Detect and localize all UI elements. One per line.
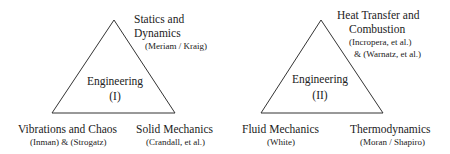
bottom-right-title: Solid Mechanics	[136, 124, 213, 136]
top-refs: (Meriam / Kraig)	[145, 42, 207, 51]
bottom-left-title: Vibrations and Chaos	[18, 124, 117, 136]
bottom-left-refs: (Inman) & (Strogatz)	[30, 138, 106, 147]
top-refs-line1: (Incropera, et al.)	[349, 38, 411, 47]
center-label: Engineering	[79, 76, 151, 88]
bottom-right-refs: (Moran / Shapiro)	[360, 138, 425, 147]
bottom-right-title: Thermodynamics	[350, 124, 430, 136]
top-title-line2: Combustion	[349, 24, 405, 36]
bottom-right-refs: (Crandall, et al.)	[146, 138, 205, 147]
center-label: Engineering	[284, 74, 356, 86]
center-sub: (II)	[284, 90, 356, 102]
top-title-line1: Statics and	[134, 14, 184, 26]
top-title-line2: Dynamics	[134, 28, 181, 40]
bottom-left-title: Fluid Mechanics	[242, 124, 319, 136]
center-sub: (I)	[79, 91, 151, 103]
top-refs-line2: & (Warnatz, et al.)	[354, 50, 421, 59]
bottom-left-refs: (White)	[267, 138, 295, 147]
top-title-line1: Heat Transfer and	[337, 10, 419, 22]
